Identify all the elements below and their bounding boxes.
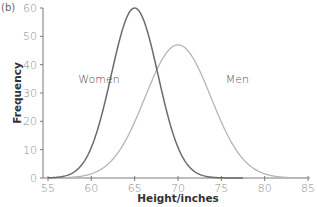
x-tick-label: 80 bbox=[258, 182, 272, 195]
x-tick-label: 85 bbox=[301, 182, 315, 195]
y-tick-label: 60 bbox=[23, 2, 37, 15]
women-curve bbox=[48, 8, 243, 178]
y-tick-label: 50 bbox=[23, 30, 37, 43]
y-axis-ticks: 0102030405060 bbox=[23, 2, 43, 185]
y-tick-label: 40 bbox=[23, 59, 37, 72]
women-series-label: Women bbox=[78, 73, 119, 86]
x-tick-label: 55 bbox=[41, 182, 55, 195]
frequency-distribution-chart: (b) 0102030405060 55606570758085 Women M… bbox=[0, 0, 317, 207]
y-tick-label: 20 bbox=[23, 115, 37, 128]
y-axis-title: Frequency bbox=[11, 62, 23, 124]
panel-label: (b) bbox=[1, 2, 15, 13]
x-tick-label: 60 bbox=[84, 182, 98, 195]
x-axis-title: Height/inches bbox=[137, 192, 219, 204]
y-tick-label: 10 bbox=[23, 144, 37, 157]
y-tick-label: 30 bbox=[23, 87, 37, 100]
men-series-label: Men bbox=[226, 73, 249, 86]
y-tick-label: 0 bbox=[30, 172, 37, 185]
